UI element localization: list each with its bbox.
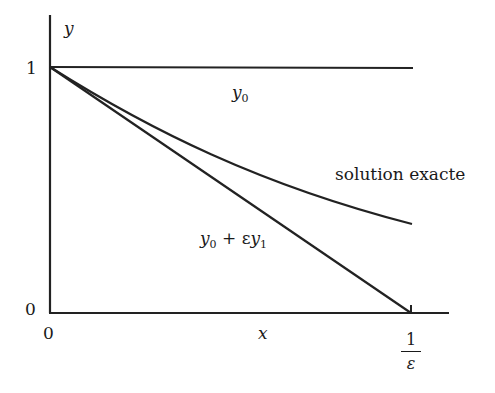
x-axis-label: x [258,325,268,342]
x-tick-inv-eps-label: 1 ε [401,330,421,373]
label-fo-plus-eps: + ε [217,228,251,248]
label-fo-y1: y [250,228,260,248]
y-axis-label: y [64,20,74,37]
label-fo-sub1: 1 [260,238,267,251]
label-y0: y0 [232,84,249,104]
label-fo-sub0: 0 [210,238,217,251]
y-tick-0: 0 [25,301,36,318]
label-y0-main: y [232,82,242,102]
label-fo-y: y [200,228,210,248]
label-y0-sub: 0 [242,92,249,105]
diagram: y 1 0 0 x 1 ε y0 solution exacte y0 + εy… [0,0,495,393]
y-tick-1: 1 [26,60,37,77]
curve-first-order [50,67,411,313]
frac-denominator: ε [401,352,421,373]
label-exact-solution: solution exacte [335,166,465,183]
label-first-order: y0 + εy1 [200,230,267,250]
curve-y0 [50,67,413,68]
curve-exact-solution [50,67,412,224]
frac-numerator: 1 [401,330,421,352]
x-tick-0: 0 [43,325,54,342]
